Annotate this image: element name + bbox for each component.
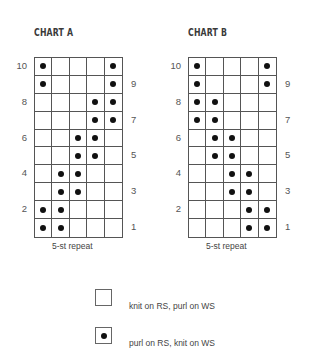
chart-cell [206, 130, 223, 148]
chart-cell [224, 112, 241, 130]
chart-cell [35, 165, 52, 183]
chart-cell [105, 130, 122, 148]
purl-dot-icon [40, 81, 46, 87]
chart-cell [105, 165, 122, 183]
row-number-label: 4 [169, 168, 181, 178]
chart-cell [70, 112, 87, 130]
chart-cell [105, 201, 122, 219]
chart-cell [206, 147, 223, 165]
purl-dot-icon [92, 135, 98, 141]
purl-dot-icon [229, 153, 235, 159]
purl-dot-icon [212, 117, 218, 123]
chart-cell [189, 76, 206, 94]
chart-cell [35, 130, 52, 148]
chart-a-grid [34, 57, 123, 238]
chart-cell [35, 58, 52, 76]
row-number-label: 7 [131, 115, 136, 125]
row-number-label: 9 [131, 79, 136, 89]
purl-dot-icon [92, 117, 98, 123]
purl-dot-icon [246, 225, 252, 231]
chart-cell [70, 58, 87, 76]
chart-cell [70, 219, 87, 237]
chart-cell [35, 147, 52, 165]
chart-cell [224, 147, 241, 165]
row-number-label: 1 [131, 222, 136, 232]
purl-dot-icon [58, 225, 64, 231]
purl-dot-icon [264, 63, 270, 69]
chart-cell [224, 94, 241, 112]
chart-cell [206, 219, 223, 237]
purl-dot-icon [212, 135, 218, 141]
purl-dot-icon [40, 225, 46, 231]
purl-dot-icon [110, 117, 116, 123]
chart-cell [87, 165, 104, 183]
chart-b-caption: 5-st repeat [206, 241, 247, 251]
chart-cell [105, 94, 122, 112]
chart-cell [206, 112, 223, 130]
chart-cell [259, 201, 276, 219]
chart-cell [52, 219, 69, 237]
row-number-label: 6 [15, 133, 27, 143]
chart-cell [241, 219, 258, 237]
legend-label-purl: purl on RS, knit on WS [129, 338, 215, 348]
purl-dot-icon [212, 153, 218, 159]
chart-cell [105, 147, 122, 165]
chart-cell [70, 130, 87, 148]
chart-cell [52, 130, 69, 148]
chart-cell [189, 94, 206, 112]
row-number-label: 8 [169, 97, 181, 107]
purl-dot-icon [194, 99, 200, 105]
chart-cell [241, 130, 258, 148]
legend-dot-square-icon [95, 327, 112, 344]
chart-cell [241, 183, 258, 201]
chart-cell [87, 130, 104, 148]
chart-cell [189, 130, 206, 148]
row-number-label: 6 [169, 133, 181, 143]
legend-label-knit: knit on RS, purl on WS [129, 301, 215, 311]
chart-cell [241, 165, 258, 183]
purl-dot-icon [58, 207, 64, 213]
purl-dot-icon [110, 99, 116, 105]
chart-cell [52, 76, 69, 94]
chart-cell [189, 201, 206, 219]
chart-cell [259, 219, 276, 237]
chart-cell [189, 112, 206, 130]
chart-cell [224, 219, 241, 237]
row-number-label: 5 [285, 150, 290, 160]
purl-dot-icon [58, 171, 64, 177]
chart-cell [52, 58, 69, 76]
chart-cell [189, 147, 206, 165]
purl-dot-icon [40, 63, 46, 69]
chart-cell [35, 183, 52, 201]
chart-cell [52, 201, 69, 219]
chart-b-grid [188, 57, 277, 238]
chart-cell [105, 219, 122, 237]
purl-dot-icon [92, 99, 98, 105]
chart-cell [70, 76, 87, 94]
purl-dot-icon [110, 81, 116, 87]
chart-cell [224, 165, 241, 183]
chart-cell [259, 165, 276, 183]
purl-dot-icon [229, 189, 235, 195]
chart-cell [87, 94, 104, 112]
chart-cell [70, 94, 87, 112]
row-number-label: 3 [285, 186, 290, 196]
chart-cell [206, 76, 223, 94]
purl-dot-icon [264, 81, 270, 87]
chart-cell [52, 165, 69, 183]
purl-dot-icon [40, 207, 46, 213]
chart-cell [259, 58, 276, 76]
chart-cell [259, 94, 276, 112]
row-number-label: 4 [15, 168, 27, 178]
chart-cell [189, 165, 206, 183]
chart-cell [206, 58, 223, 76]
chart-cell [206, 183, 223, 201]
row-number-label: 3 [131, 186, 136, 196]
chart-cell [105, 76, 122, 94]
purl-dot-icon [264, 225, 270, 231]
row-number-label: 2 [169, 204, 181, 214]
chart-cell [241, 76, 258, 94]
row-number-label: 2 [15, 204, 27, 214]
chart-cell [259, 183, 276, 201]
purl-dot-icon [246, 207, 252, 213]
